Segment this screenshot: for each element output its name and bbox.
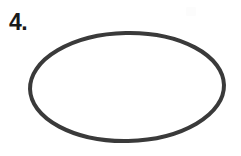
- ellipse-figure-svg: [0, 0, 241, 156]
- scan-artifact-speck: [186, 7, 196, 16]
- figure-canvas: [0, 0, 241, 156]
- worksheet-figure-panel: 4.: [0, 0, 241, 156]
- ellipse-shape: [29, 31, 225, 143]
